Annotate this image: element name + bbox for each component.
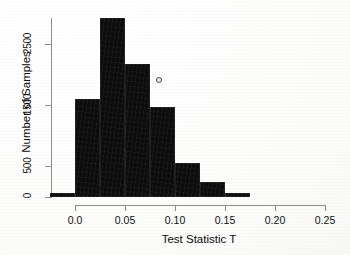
- histogram-figure: Number of Samples 050015002500 0.00.050.…: [0, 0, 350, 255]
- plot-area: Number of Samples 050015002500 0.00.050.…: [0, 0, 350, 255]
- histogram-bar: [200, 182, 225, 197]
- histogram-bar: [125, 64, 150, 197]
- histogram-bars: [0, 0, 350, 255]
- histogram-bar: [100, 18, 125, 197]
- histogram-bar: [150, 107, 175, 197]
- histogram-bar: [75, 99, 100, 197]
- histogram-bar: [175, 163, 200, 197]
- histogram-bar: [225, 193, 250, 197]
- histogram-bar: [50, 193, 75, 197]
- scan-artifact-speck: [157, 78, 161, 82]
